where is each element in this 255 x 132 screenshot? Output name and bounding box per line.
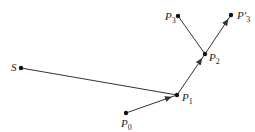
- edge-S-P1: [21, 68, 177, 95]
- point-S: [19, 66, 23, 70]
- label-P3p: P′3: [237, 10, 250, 24]
- label-P0: P0: [121, 118, 132, 132]
- label-S: S: [11, 62, 17, 73]
- label-P2: P2: [209, 52, 220, 66]
- point-P2: [203, 52, 207, 56]
- point-P3: [176, 14, 180, 18]
- edge-P2-P3: [178, 16, 205, 54]
- edge-P2-P3p: [205, 15, 231, 54]
- label-P3: P3: [165, 11, 176, 25]
- edge-P1-P2: [177, 54, 205, 95]
- points-group: [19, 13, 233, 115]
- point-P3p: [229, 13, 233, 17]
- point-P0: [124, 111, 128, 115]
- label-P1: P1: [182, 92, 193, 106]
- point-P1: [175, 93, 179, 97]
- edge-P0-P1: [126, 95, 177, 113]
- edges-group: [21, 15, 231, 113]
